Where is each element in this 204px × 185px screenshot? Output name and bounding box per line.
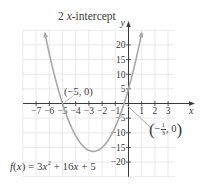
leader-right: [126, 105, 150, 128]
x-tick-label: 1: [139, 106, 144, 116]
x-tick-label: −6: [44, 106, 54, 116]
annotation-right-intercept: (−13, 0): [149, 121, 182, 138]
x-tick-label: 2: [153, 106, 158, 116]
function-label: f(x) = 3x2 + 16x + 5: [10, 160, 96, 172]
func-mid: + 16: [51, 160, 74, 172]
func-eq: ) = 3: [22, 160, 43, 172]
x-tick-label: −4: [71, 106, 81, 116]
x-tick-label: −2: [97, 106, 107, 116]
y-tick-label: 5: [121, 84, 126, 94]
x-tick-label: −7: [31, 106, 41, 116]
y-tick-label: −15: [111, 143, 126, 153]
coord-rest: , 0: [166, 123, 177, 134]
paren-close: ): [177, 120, 183, 139]
y-axis-label: y: [120, 17, 126, 28]
x-tick-label: −3: [84, 106, 94, 116]
func-end: + 5: [79, 160, 96, 172]
y-tick-label: 15: [116, 55, 126, 65]
x-tick-label: 3: [166, 106, 171, 116]
parabola-path: [45, 33, 142, 151]
axes: xy: [23, 17, 195, 177]
y-tick-label: 20: [116, 40, 126, 50]
annotation-left-intercept: (−5, 0): [64, 87, 93, 98]
chart-title: 2 x-intercept: [58, 11, 116, 23]
curve-arrow-icon: [139, 31, 144, 37]
y-tick-label: 10: [116, 70, 126, 80]
title-count: 2: [58, 10, 64, 22]
y-tick-label: −20: [111, 157, 126, 167]
parabola-chart: xy −7−6−5−4−3−2−11232015105−5−10−15−20: [0, 0, 204, 185]
curve-arrow-icon: [43, 31, 48, 37]
x-axis-label: x: [188, 105, 194, 116]
title-rest: -intercept: [72, 10, 116, 22]
y-axis-arrow-icon: [126, 21, 130, 27]
